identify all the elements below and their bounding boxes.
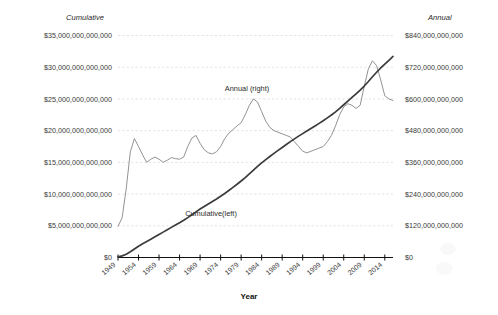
watermark-blob-1 bbox=[440, 243, 456, 255]
chart-container: $0$5,000,000,000,000$10,000,000,000,000$… bbox=[0, 0, 498, 315]
x-axis-tick-label: 1959 bbox=[141, 261, 158, 276]
x-axis-tick-label: 1989 bbox=[264, 261, 281, 276]
x-axis-tick-label: 1984 bbox=[244, 261, 261, 276]
right-axis-tick-label: $360,000,000,000 bbox=[405, 158, 463, 167]
left-axis-tick-label: $10,000,000,000,000 bbox=[44, 190, 112, 199]
x-axis-tick-label: 2004 bbox=[326, 261, 343, 276]
left-axis-tick-label: $20,000,000,000,000 bbox=[44, 126, 112, 135]
right-axis-tick-label: $600,000,000,000 bbox=[405, 95, 463, 104]
right-axis-tick-label: $840,000,000,000 bbox=[405, 31, 463, 40]
x-axis-tick-label: 1994 bbox=[285, 261, 302, 276]
right-axis-tick-label: $120,000,000,000 bbox=[405, 221, 463, 230]
x-axis-tick-label: 1979 bbox=[223, 261, 240, 276]
right-axis-title: Annual bbox=[427, 13, 452, 22]
cumulative-annual-line-chart: $0$5,000,000,000,000$10,000,000,000,000$… bbox=[0, 0, 498, 315]
x-axis-tick-label: 1954 bbox=[121, 261, 138, 276]
left-axis-tick-label: $15,000,000,000,000 bbox=[44, 158, 112, 167]
x-axis-tick-label: 1964 bbox=[162, 261, 179, 276]
left-axis-tick-label: $35,000,000,000,000 bbox=[44, 31, 112, 40]
x-axis-tick-label: 1949 bbox=[100, 261, 117, 276]
annual-series-label: Annual (right) bbox=[225, 84, 269, 93]
left-axis-title: Cumulative bbox=[66, 13, 104, 22]
right-axis-tick-label: $240,000,000,000 bbox=[405, 190, 463, 199]
right-axis-tick-label: $720,000,000,000 bbox=[405, 63, 463, 72]
watermark-blob-2 bbox=[436, 262, 453, 275]
right-axis-tick-label: $0 bbox=[405, 253, 413, 262]
x-axis-tick-label: 1974 bbox=[203, 261, 220, 276]
x-axis-title: Year bbox=[241, 292, 258, 301]
right-axis-tick-label: $480,000,000,000 bbox=[405, 126, 463, 135]
x-axis-tick-label: 2014 bbox=[367, 261, 384, 276]
x-axis-tick-labels: 1949195419591964196919741979198419891994… bbox=[100, 261, 383, 276]
cumulative-series-label: Cumulative(left) bbox=[185, 209, 237, 218]
left-axis-tick-label: $25,000,000,000,000 bbox=[44, 95, 112, 104]
gridlines-group bbox=[118, 36, 393, 226]
x-axis-tick-label: 1969 bbox=[182, 261, 199, 276]
left-axis-tick-labels: $0$5,000,000,000,000$10,000,000,000,000$… bbox=[44, 31, 112, 262]
x-axis-tick-label: 1999 bbox=[305, 261, 322, 276]
right-axis-tick-labels: $0$120,000,000,000$240,000,000,000$360,0… bbox=[405, 31, 463, 262]
left-axis-tick-label: $5,000,000,000,000 bbox=[48, 221, 112, 230]
x-axis-group bbox=[118, 255, 393, 261]
x-axis-tick-label: 2009 bbox=[346, 261, 363, 276]
left-axis-tick-label: $30,000,000,000,000 bbox=[44, 63, 112, 72]
